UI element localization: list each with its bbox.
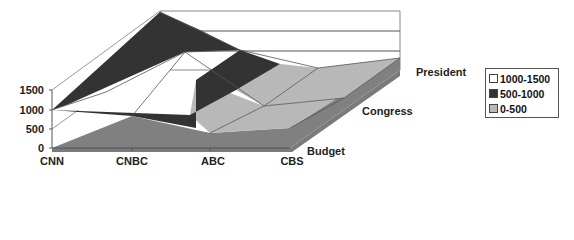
legend-item: 500-1000 <box>489 86 558 101</box>
y-tick-label: 500 <box>26 123 44 135</box>
x-tick-label: CNBC <box>116 155 148 167</box>
y-tick-label: 1500 <box>20 84 44 96</box>
legend-swatch-icon <box>489 74 498 83</box>
legend-label: 500-1000 <box>500 88 544 100</box>
x-tick-label: ABC <box>201 155 225 167</box>
x-tick-label: CNN <box>40 155 64 167</box>
x-tick-label: CBS <box>280 155 303 167</box>
legend-item: 0-500 <box>489 101 558 116</box>
depth-label: Congress <box>362 105 413 117</box>
y-tick-label: 0 <box>38 142 44 154</box>
legend-item: 1000-1500 <box>489 71 558 86</box>
legend-swatch-icon <box>489 89 498 98</box>
legend-swatch-icon <box>489 104 498 113</box>
y-tick-label: 1000 <box>20 104 44 116</box>
legend-label: 0-500 <box>500 103 527 115</box>
depth-label: President <box>416 66 466 78</box>
legend: 1000-1500 500-1000 0-500 <box>485 68 559 118</box>
legend-label: 1000-1500 <box>500 73 550 85</box>
depth-label: Budget <box>307 145 345 157</box>
y-axis <box>49 90 52 148</box>
